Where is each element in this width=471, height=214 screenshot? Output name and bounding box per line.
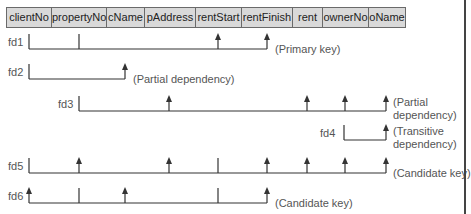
fd2-note: (Partial dependency) bbox=[133, 73, 235, 86]
arrowhead-icon bbox=[122, 63, 128, 70]
arrowhead-icon bbox=[264, 33, 270, 40]
fd4-note: (Transitivedependency) bbox=[393, 125, 457, 151]
arrowhead-icon bbox=[76, 157, 82, 164]
fd5-label: fd5 bbox=[8, 160, 23, 172]
fd5-note: (Candidate key) bbox=[393, 167, 471, 180]
arrowhead-icon bbox=[383, 124, 389, 131]
fd4-label: fd4 bbox=[320, 127, 335, 139]
arrowhead-icon bbox=[304, 95, 310, 102]
fd2-label: fd2 bbox=[8, 66, 23, 78]
arrowhead-icon bbox=[264, 157, 270, 164]
arrowhead-icon bbox=[304, 157, 310, 164]
arrowhead-icon bbox=[342, 95, 348, 102]
arrowhead-icon bbox=[166, 95, 172, 102]
fd1-label: fd1 bbox=[8, 36, 23, 48]
arrowhead-icon bbox=[383, 95, 389, 102]
arrowhead-icon bbox=[215, 33, 221, 40]
arrowhead-icon bbox=[26, 187, 32, 194]
fd1-note: (Primary key) bbox=[275, 43, 340, 56]
arrowhead-icon bbox=[383, 157, 389, 164]
fd6-label: fd6 bbox=[8, 190, 23, 202]
arrowhead-icon bbox=[166, 157, 172, 164]
fd6-note: (Candidate key) bbox=[275, 197, 353, 210]
arrowhead-icon bbox=[122, 187, 128, 194]
right-border-line bbox=[464, 0, 466, 214]
fd3-label: fd3 bbox=[58, 98, 73, 110]
fd3-note: (Partialdependency) bbox=[393, 96, 457, 122]
arrowhead-icon bbox=[264, 187, 270, 194]
arrowhead-icon bbox=[342, 157, 348, 164]
